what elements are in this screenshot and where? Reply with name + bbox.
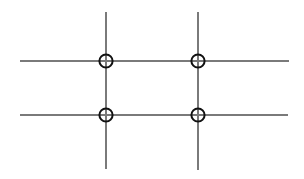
diagram-svg [0, 0, 304, 179]
diagram-canvas [0, 0, 304, 179]
diagram-background [0, 0, 304, 179]
